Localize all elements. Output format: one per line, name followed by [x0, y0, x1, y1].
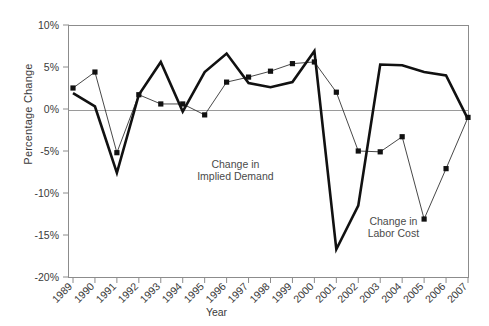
data-point-marker	[334, 90, 339, 95]
data-point-marker	[180, 101, 185, 106]
data-point-marker	[158, 101, 163, 106]
data-point-marker	[70, 85, 75, 90]
series-line-labor-cost	[73, 62, 468, 219]
y-tick-label: -5%	[40, 145, 59, 157]
data-point-marker	[312, 59, 317, 64]
x-tick-label: 2004	[379, 280, 404, 305]
labor-cost-label: Change in	[369, 215, 417, 227]
data-point-marker	[92, 69, 97, 74]
data-point-marker	[114, 150, 119, 155]
implied-demand-label: Change in	[211, 158, 259, 170]
labor-cost-label: Labor Cost	[368, 227, 419, 239]
y-axis-title: Percentage Change	[22, 24, 34, 204]
x-tick-label: 2006	[422, 280, 447, 305]
x-tick-label: 1989	[49, 280, 74, 305]
data-point-marker	[378, 149, 383, 154]
data-point-marker	[443, 166, 448, 171]
y-tick-label: -15%	[34, 229, 59, 241]
data-point-marker	[268, 69, 273, 74]
x-tick-label: 1995	[181, 280, 206, 305]
x-tick-label: 1990	[71, 280, 96, 305]
chart-annotations: Change inImplied DemandChange inLabor Co…	[197, 158, 419, 239]
data-point-marker	[290, 61, 295, 66]
y-tick-label: 10%	[38, 19, 59, 31]
y-tick-label: 0%	[44, 103, 59, 115]
y-tick-label: -20%	[34, 271, 59, 283]
x-axis-title-text: Year	[206, 306, 227, 318]
data-point-marker	[422, 216, 427, 221]
plot-frame	[69, 26, 469, 278]
x-axis-title: Year	[0, 306, 489, 318]
implied-demand-label: Implied Demand	[197, 170, 274, 182]
x-tick-label: 2000	[291, 280, 316, 305]
x-tick-label: 2003	[357, 280, 382, 305]
data-point-marker	[465, 115, 470, 120]
y-tick-label: -10%	[34, 187, 59, 199]
chart-container: 10%5%0%-5%-10%-15%-20% 19891990199119921…	[0, 0, 489, 326]
x-tick-label: 1997	[225, 280, 250, 305]
x-tick-label: 2002	[335, 280, 360, 305]
x-tick-label: 1992	[115, 280, 140, 305]
x-tick-label: 1994	[159, 280, 184, 305]
series-markers-labor-cost	[70, 59, 470, 221]
x-tick-label: 1991	[93, 280, 118, 305]
x-tick-label: 2001	[313, 280, 338, 305]
data-point-marker	[136, 92, 141, 97]
data-point-marker	[246, 74, 251, 79]
data-point-marker	[356, 148, 361, 153]
x-tick-label: 2005	[401, 280, 426, 305]
y-tick-label: 5%	[44, 61, 59, 73]
x-tick-label: 1996	[203, 280, 228, 305]
x-tick-label: 1998	[247, 280, 272, 305]
data-point-marker	[202, 112, 207, 117]
x-tick-label: 1993	[137, 280, 162, 305]
y-axis-ticks: 10%5%0%-5%-10%-15%-20%	[34, 19, 69, 283]
x-axis-ticks: 1989199019911992199319941995199619971998…	[49, 277, 469, 305]
chart-plot-area: 10%5%0%-5%-10%-15%-20% 19891990199119921…	[0, 0, 489, 326]
x-tick-label: 1999	[269, 280, 294, 305]
x-tick-label: 2007	[444, 280, 469, 305]
data-point-marker	[400, 134, 405, 139]
data-point-marker	[224, 80, 229, 85]
